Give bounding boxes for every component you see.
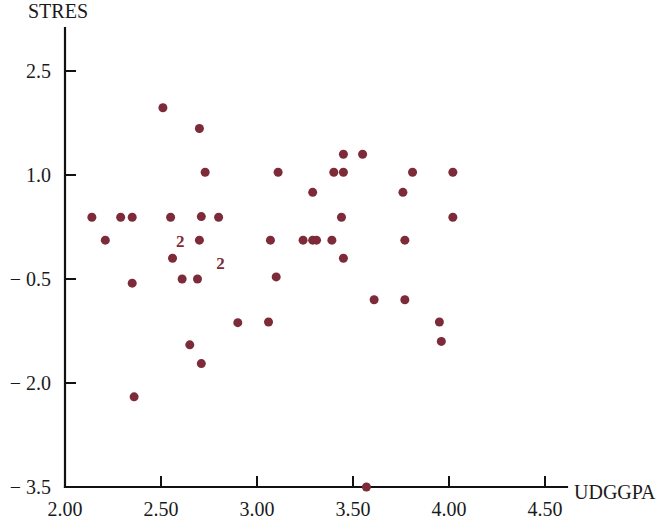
data-point	[201, 168, 210, 177]
data-point	[101, 236, 110, 245]
data-point	[398, 188, 407, 197]
data-point	[299, 236, 308, 245]
overlap-label-0: 2	[176, 232, 185, 251]
data-point	[339, 254, 348, 263]
y-tick-label-2: − 0.5	[10, 268, 51, 290]
data-point	[116, 213, 125, 222]
axes	[65, 28, 567, 487]
axis-ticks	[65, 71, 545, 487]
data-point	[337, 213, 346, 222]
data-point	[329, 168, 338, 177]
data-point	[437, 337, 446, 346]
data-point	[264, 317, 273, 326]
data-point	[128, 213, 137, 222]
data-point	[168, 254, 177, 263]
x-tick-label-5: 4.50	[528, 498, 563, 520]
data-point	[312, 236, 321, 245]
x-tick-label-0: 2.00	[48, 498, 83, 520]
x-axis-title: UDGGPA	[574, 481, 656, 503]
y-tick-label-3: − 2.0	[10, 372, 51, 394]
data-point	[197, 212, 206, 221]
data-point	[130, 392, 139, 401]
data-point	[358, 150, 367, 159]
data-point	[400, 295, 409, 304]
data-point	[272, 272, 281, 281]
data-point	[178, 275, 187, 284]
plot-canvas: 2.002.503.003.504.004.50 2.51.0− 0.5− 2.…	[0, 0, 664, 529]
y-tick-label-1: 1.0	[26, 164, 51, 186]
data-point	[308, 188, 317, 197]
y-axis-title: STRES	[28, 0, 88, 22]
data-point	[197, 359, 206, 368]
data-point	[362, 483, 371, 492]
y-axis-tick-labels: 2.51.0− 0.5− 2.0− 3.5	[10, 60, 51, 498]
data-point	[158, 103, 167, 112]
data-point	[195, 236, 204, 245]
data-point	[435, 317, 444, 326]
data-point	[195, 124, 204, 133]
data-point	[339, 150, 348, 159]
data-point	[185, 340, 194, 349]
data-point	[448, 213, 457, 222]
x-tick-label-3: 3.50	[336, 498, 371, 520]
scatter-plot-figure: 2.002.503.003.504.004.50 2.51.0− 0.5− 2.…	[0, 0, 664, 529]
data-point	[327, 236, 336, 245]
y-tick-label-0: 2.5	[26, 60, 51, 82]
data-point	[266, 236, 275, 245]
data-point	[128, 279, 137, 288]
overlap-label-1: 2	[216, 254, 225, 273]
data-point	[448, 168, 457, 177]
data-point	[87, 213, 96, 222]
data-points	[87, 103, 457, 491]
data-point	[233, 318, 242, 327]
data-point	[408, 168, 417, 177]
y-tick-label-4: − 3.5	[10, 476, 51, 498]
data-point	[214, 213, 223, 222]
x-tick-label-1: 2.50	[144, 498, 179, 520]
data-point	[166, 213, 175, 222]
data-point	[193, 275, 202, 284]
data-point	[339, 168, 348, 177]
x-axis-tick-labels: 2.002.503.003.504.004.50	[48, 498, 563, 520]
data-point	[400, 236, 409, 245]
data-point	[370, 295, 379, 304]
x-tick-label-4: 4.00	[432, 498, 467, 520]
x-tick-label-2: 3.00	[240, 498, 275, 520]
data-point	[274, 168, 283, 177]
